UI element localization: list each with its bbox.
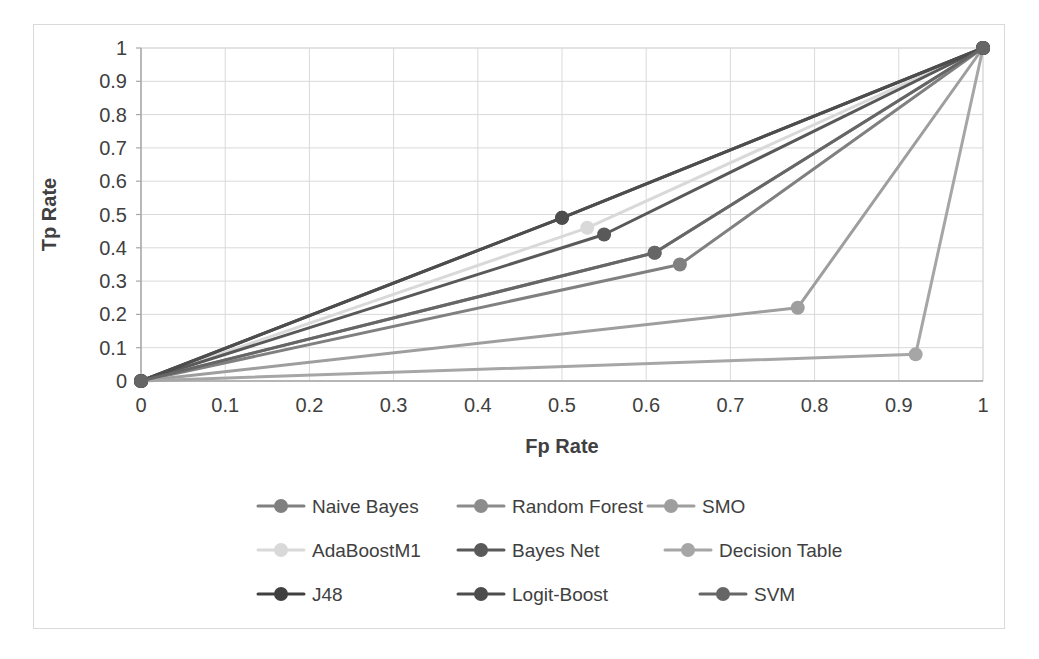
- x-tick-label: 0.5: [548, 394, 576, 416]
- legend-label: Random Forest: [512, 496, 644, 517]
- legend-item-random-forest[interactable]: Random Forest: [458, 496, 644, 517]
- legend-marker-icon: [664, 499, 678, 513]
- legend-label: Bayes Net: [512, 540, 600, 561]
- legend-label: J48: [312, 584, 343, 605]
- legend-label: Decision Table: [719, 540, 842, 561]
- y-tick-label: 0.7: [99, 137, 127, 159]
- legend-label: SVM: [754, 584, 795, 605]
- roc-chart-svg: 00.10.20.30.40.50.60.70.80.9100.10.20.30…: [0, 0, 1039, 659]
- roc-chart-container: 00.10.20.30.40.50.60.70.80.9100.10.20.30…: [0, 0, 1039, 659]
- legend-label: SMO: [702, 496, 745, 517]
- x-tick-label: 0: [135, 394, 146, 416]
- data-point-marker: [648, 246, 662, 260]
- data-point-marker: [673, 257, 687, 271]
- legend-group: Naive BayesRandom ForestSMOAdaBoostM1Bay…: [258, 496, 842, 605]
- y-tick-label: 0.4: [99, 237, 127, 259]
- y-tick-label: 0.1: [99, 337, 127, 359]
- legend-marker-icon: [716, 587, 730, 601]
- legend-marker-icon: [274, 499, 288, 513]
- data-point-marker: [976, 41, 990, 55]
- x-axis-title: Fp Rate: [525, 435, 598, 457]
- legend-item-svm[interactable]: SVM: [700, 584, 795, 605]
- y-tick-label: 0.8: [99, 104, 127, 126]
- legend-marker-icon: [474, 499, 488, 513]
- legend-marker-icon: [274, 587, 288, 601]
- legend-marker-icon: [474, 543, 488, 557]
- legend-marker-icon: [474, 587, 488, 601]
- y-tick-label: 0.9: [99, 70, 127, 92]
- x-tick-label: 0.9: [885, 394, 913, 416]
- y-axis-title: Tp Rate: [38, 178, 60, 251]
- legend-label: Naive Bayes: [312, 496, 419, 517]
- legend-item-logit-boost[interactable]: Logit-Boost: [458, 584, 609, 605]
- data-point-marker: [555, 211, 569, 225]
- legend-marker-icon: [681, 543, 695, 557]
- x-tick-label: 0.8: [801, 394, 829, 416]
- data-point-marker: [791, 301, 805, 315]
- data-point-marker: [909, 347, 923, 361]
- x-tick-label: 0.4: [464, 394, 492, 416]
- legend-label: AdaBoostM1: [312, 540, 421, 561]
- legend-item-adaboostm1[interactable]: AdaBoostM1: [258, 540, 421, 561]
- legend-item-smo[interactable]: SMO: [648, 496, 745, 517]
- legend-item-j48[interactable]: J48: [258, 584, 343, 605]
- x-tick-label: 0.7: [716, 394, 744, 416]
- x-tick-label: 0.3: [380, 394, 408, 416]
- legend-item-naive-bayes[interactable]: Naive Bayes: [258, 496, 419, 517]
- y-tick-label: 0: [116, 370, 127, 392]
- legend-item-decision-table[interactable]: Decision Table: [665, 540, 842, 561]
- data-point-marker: [580, 221, 594, 235]
- y-tick-label: 0.5: [99, 204, 127, 226]
- x-tick-label: 0.6: [632, 394, 660, 416]
- y-tick-label: 0.2: [99, 303, 127, 325]
- legend-item-bayes-net[interactable]: Bayes Net: [458, 540, 600, 561]
- legend-marker-icon: [274, 543, 288, 557]
- x-tick-label: 0.2: [295, 394, 323, 416]
- x-tick-label: 1: [977, 394, 988, 416]
- data-point-marker: [597, 227, 611, 241]
- legend-label: Logit-Boost: [512, 584, 609, 605]
- y-tick-label: 0.6: [99, 170, 127, 192]
- x-tick-label: 0.1: [211, 394, 239, 416]
- y-tick-label: 0.3: [99, 270, 127, 292]
- y-tick-label: 1: [116, 37, 127, 59]
- data-point-marker: [134, 374, 148, 388]
